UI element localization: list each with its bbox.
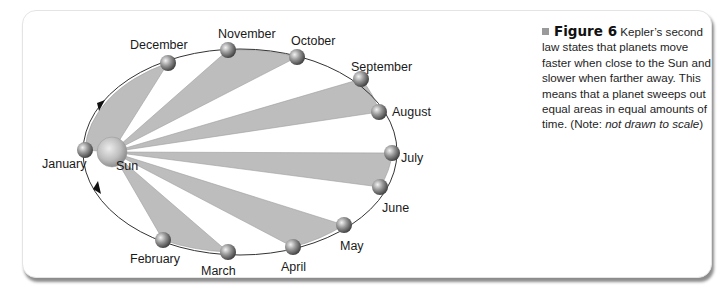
label-april: April xyxy=(281,260,306,274)
label-march: March xyxy=(201,264,236,278)
label-february: February xyxy=(130,252,181,266)
caption-text: Kepler’s second law states that planets … xyxy=(542,25,711,130)
label-january: January xyxy=(42,157,87,171)
label-sun: Sun xyxy=(116,159,138,173)
label-october: October xyxy=(291,34,335,48)
label-november: November xyxy=(218,27,276,41)
planet-february-icon xyxy=(155,232,171,248)
label-may: May xyxy=(340,239,364,253)
planet-october-icon xyxy=(289,49,305,65)
label-august: August xyxy=(392,105,431,119)
direction-arrow-icon xyxy=(93,181,101,194)
label-september: September xyxy=(351,60,412,74)
planet-april-icon xyxy=(285,239,301,255)
planet-august-icon xyxy=(371,104,387,120)
planet-january-icon xyxy=(77,142,93,158)
planet-june-icon xyxy=(372,179,388,195)
label-july: July xyxy=(401,151,424,165)
caption-note: not drawn to scale xyxy=(605,117,699,130)
swept-area-aug-sep xyxy=(112,79,379,152)
label-june: June xyxy=(382,201,409,215)
planet-december-icon xyxy=(160,55,176,71)
swept-area-dec-jan xyxy=(85,63,168,152)
figure-number: Figure 6 xyxy=(554,23,617,39)
planet-may-icon xyxy=(336,217,352,233)
planet-november-icon xyxy=(220,42,236,58)
figure-caption: Figure 6 Kepler’s second law states that… xyxy=(542,24,712,132)
planet-july-icon xyxy=(384,145,400,161)
caption-end: ) xyxy=(699,117,703,130)
caption-bullet-icon xyxy=(542,28,549,35)
planet-march-icon xyxy=(220,244,236,260)
label-december: December xyxy=(130,38,188,52)
